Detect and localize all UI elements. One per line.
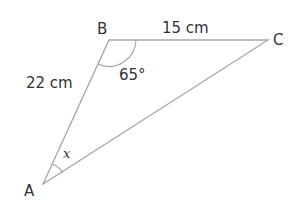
vertex-label-c: C: [273, 31, 283, 49]
angle-label-b: 65°: [119, 66, 146, 84]
vertex-label-a: A: [24, 182, 35, 200]
side-label-bc: 15 cm: [162, 19, 209, 37]
angle-arc-b: [98, 40, 136, 66]
angle-label-a: x: [63, 146, 71, 161]
side-label-ab: 22 cm: [26, 74, 73, 92]
triangle-abc: [43, 40, 268, 184]
triangle-diagram: B C A 15 cm 22 cm 65° x: [0, 0, 293, 218]
vertex-label-b: B: [97, 20, 107, 38]
